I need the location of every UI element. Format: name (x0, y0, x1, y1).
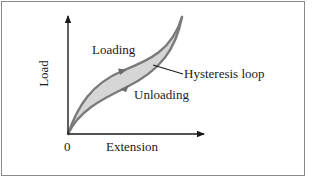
hysteresis-leader-line (153, 65, 183, 74)
unloading-label: Unloading (134, 88, 189, 101)
origin-label: 0 (64, 140, 71, 153)
y-axis-label: Load (37, 60, 50, 87)
hysteresis-loop-area (68, 17, 182, 134)
x-axis-label: Extension (106, 140, 158, 153)
hysteresis-loop-label: Hysteresis loop (184, 67, 265, 80)
loading-label: Loading (92, 43, 135, 56)
